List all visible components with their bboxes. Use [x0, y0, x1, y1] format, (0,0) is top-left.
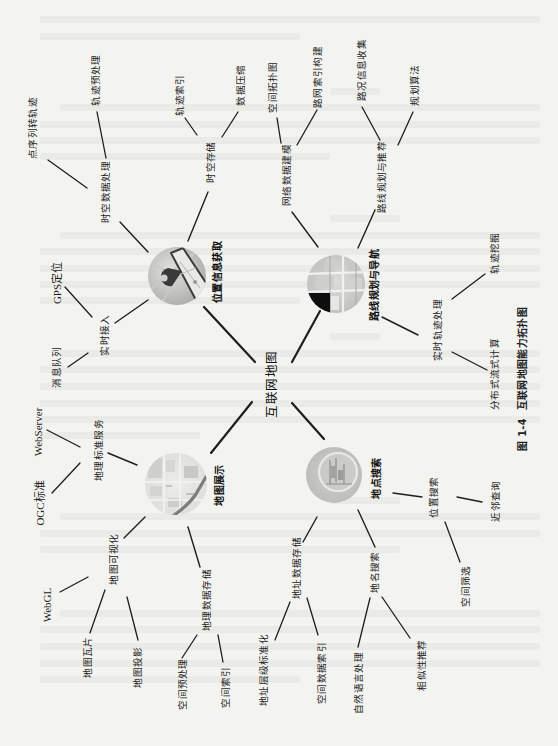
leaf-planning-algorithm: 规划算法	[410, 64, 420, 105]
leaf-spatial-data-index: 空间数据索引	[317, 642, 327, 704]
connector-spatial-index	[218, 635, 223, 662]
connector-display-to-map-visualization	[124, 517, 145, 538]
leaf-natural-language-processing: 自然语言处理	[354, 652, 364, 714]
connector-spatial-data-index	[307, 598, 318, 635]
connector-message-queue	[68, 353, 88, 367]
branch-place-search: 地点搜索	[372, 457, 382, 498]
leaf-gps-positioning: GPS定位	[52, 262, 63, 304]
node-map-visualization: 地图可视化	[109, 533, 119, 585]
branch-route-planning-navigation: 路线规划与导航	[370, 249, 380, 321]
connector-point-sequence	[48, 160, 87, 188]
node-network-data-modeling: 网络数据建模	[282, 144, 292, 206]
figure-caption: 图 1-4互联网地图能力拓扑图	[518, 307, 528, 451]
leaf-nearest-neighbor-query: 近邻查询	[491, 480, 501, 521]
map-display-thumbnail	[145, 453, 210, 518]
location-acquisition-thumbnail	[148, 247, 210, 305]
leaf-trajectory-preprocessing: 轨迹预处理	[91, 54, 101, 106]
figure-title: 互联网地图能力拓扑图	[517, 307, 528, 410]
node-spatiotemporal-processing: 时空数据处理	[101, 161, 111, 223]
leaf-spatial-index: 空间索引	[221, 666, 231, 707]
node-realtime-trajectory-processing: 实时轨迹处理	[433, 299, 443, 361]
node-geo-data-storage: 地理数据存储	[202, 569, 212, 631]
leaf-message-queue: 消息队列	[52, 346, 62, 387]
leaf-spatial-preprocessing: 空间预处理	[178, 658, 188, 710]
connector-route-to-realtime-trajectory	[382, 317, 418, 335]
figure-number: 图 1-4	[517, 418, 528, 451]
connector-ogc-standard	[52, 463, 80, 493]
connector-location-to-realtime-ingestion	[115, 300, 148, 323]
node-address-data-storage: 地址数据存储	[292, 537, 302, 599]
connector-address-standardization	[275, 602, 290, 640]
leaf-webgl: WebGL	[42, 588, 53, 623]
leaf-traffic-info-collection: 路况信息收集	[357, 39, 367, 101]
leaf-point-sequence-to-trajectory: 点序列转轨迹	[28, 97, 38, 159]
connector-nearest-neighbor-query	[457, 497, 482, 502]
leaf-map-projection: 地图投影	[133, 646, 143, 687]
magnifier-icon	[319, 453, 357, 491]
connector-gps-positioning	[65, 287, 92, 317]
connector-spatial-topology-graph	[277, 118, 281, 143]
connector-root-to-route-planning	[292, 311, 320, 362]
node-spatiotemporal-storage: 时空存储	[206, 141, 216, 182]
connector-root-to-map-display	[211, 402, 252, 453]
route-navigation-thumbnail	[304, 254, 366, 315]
connector-trajectory-index	[185, 118, 197, 135]
leaf-trajectory-mining: 轨迹挖掘	[490, 232, 500, 273]
connector-traffic-info	[362, 107, 380, 140]
connector-search-to-place-name-search	[358, 510, 375, 547]
connector-webgl	[60, 577, 88, 592]
leaf-spatial-filtering: 空间筛选	[461, 565, 471, 606]
connector-route-to-route-recommendation	[358, 210, 375, 248]
connector-planning-algorithm	[398, 112, 413, 145]
place-search-thumbnail	[306, 447, 362, 503]
connector-data-compression	[222, 112, 238, 137]
connector-route-to-network-modeling	[292, 212, 318, 247]
leaf-similarity-recommendation: 相似性推荐	[417, 639, 427, 691]
connector-similarity-recommendation	[382, 597, 410, 638]
connector-trajectory-preprocessing	[97, 112, 106, 158]
connector-display-to-geo-data-storage	[188, 527, 200, 567]
connector-trajectory-mining	[452, 274, 485, 299]
branch-location-acquisition: 位置信息获取	[213, 241, 223, 303]
node-route-planning-recommendation: 路线规划与推荐	[377, 141, 387, 213]
leaf-address-hierarchy-standardization: 地址层级标准化	[259, 634, 269, 706]
leaf-ogc-standard: OGC标准	[35, 480, 46, 525]
leaf-trajectory-index: 轨迹索引	[175, 74, 185, 115]
connector-location-to-spatiotemporal-processing	[120, 222, 148, 252]
node-geo-standard-service: 地理标准服务	[94, 419, 104, 481]
leaf-spatial-topology-graph: 空间拓扑图	[268, 61, 278, 113]
leaf-webserver: WebServer	[33, 408, 44, 457]
leaf-data-compression: 数据压缩	[236, 64, 246, 105]
rotated-book-page: 互联网地图 位置信息获取 路线规划与导航 地图展示 地点搜索 时空数据处理 点序…	[0, 0, 558, 746]
connector-distributed-stream-computing	[452, 352, 487, 370]
leaf-map-tiles: 地图瓦片	[83, 636, 93, 677]
connector-natural-language-processing	[358, 598, 370, 647]
connector-root-to-location-acquisition	[204, 307, 255, 362]
branch-map-display: 地图展示	[215, 464, 225, 505]
root-node-internet-map: 互联网地图	[266, 350, 279, 418]
connector-map-projection	[127, 597, 138, 640]
leaf-road-network-index-building: 路网索引构建	[313, 46, 323, 108]
connector-search-to-location-search	[393, 493, 422, 497]
connector-road-network-index	[297, 110, 317, 145]
connector-location-to-spatiotemporal-storage	[188, 192, 208, 241]
connector-spatial-preprocessing	[182, 635, 197, 658]
connector-root-to-place-search	[292, 403, 324, 439]
connector-spatial-filtering	[445, 522, 460, 562]
node-realtime-ingestion: 实时接入	[100, 314, 110, 355]
node-place-name-search: 地名搜索	[370, 551, 380, 592]
topology-diagram	[0, 0, 558, 746]
connector-display-to-geo-standard-service	[108, 453, 137, 465]
node-location-search: 位置搜索	[429, 476, 439, 517]
connector-webserver	[47, 430, 80, 447]
leaf-distributed-stream-computing: 分布式流式计算	[490, 338, 500, 410]
connector-map-tiles	[90, 590, 105, 633]
connector-search-to-address-storage	[303, 517, 317, 542]
